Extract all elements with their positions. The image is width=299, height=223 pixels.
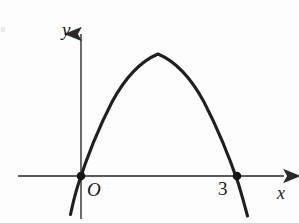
y-axis-label: y [62, 20, 70, 39]
x-axis-label: x [277, 184, 285, 202]
x-tick-label-3: 3 [218, 179, 228, 198]
point-marker-origin [77, 172, 86, 181]
parabola-figure: y x O 3 [0, 0, 299, 223]
origin-label: O [87, 180, 101, 199]
point-marker-three [233, 172, 242, 181]
graph-canvas [0, 0, 299, 223]
